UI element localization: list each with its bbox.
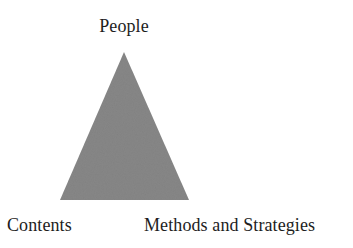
figure-background bbox=[0, 0, 353, 248]
apex-label-people: People bbox=[0, 16, 248, 36]
triangle-figure bbox=[0, 0, 353, 248]
bottom-left-label-contents: Contents bbox=[7, 215, 72, 235]
bottom-right-label-methods-and-strategies: Methods and Strategies bbox=[144, 215, 315, 235]
diagram-canvas: People Contents Methods and Strategies bbox=[0, 0, 353, 248]
